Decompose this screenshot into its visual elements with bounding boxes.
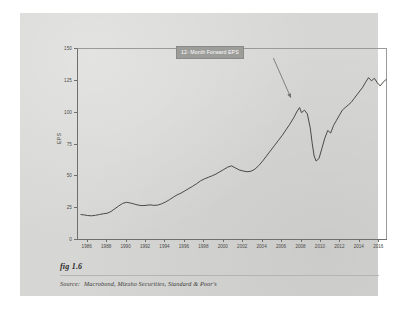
y-tick-mark	[74, 112, 77, 113]
y-tick-label: 125	[64, 77, 72, 82]
y-tick-mark	[74, 175, 77, 176]
y-tick-label: 0	[69, 237, 72, 242]
x-tick-mark	[145, 239, 146, 242]
x-tick-mark	[87, 239, 88, 242]
x-tick-mark	[359, 239, 360, 242]
x-tick-mark	[301, 239, 302, 242]
x-tick-label: 2012	[334, 244, 344, 249]
x-tick-mark	[106, 239, 107, 242]
x-tick-label: 2008	[295, 244, 305, 249]
eps-line-series	[78, 49, 388, 240]
caption-divider	[60, 275, 379, 276]
x-tick-label: 1998	[198, 244, 208, 249]
x-tick-label: 1992	[140, 244, 150, 249]
figure-card: 0255075100125150 19861988199019921994199…	[20, 13, 378, 296]
x-tick-label: 1986	[82, 244, 92, 249]
y-tick-mark	[74, 80, 77, 81]
y-tick-mark	[74, 48, 77, 49]
series-line	[81, 78, 386, 216]
x-tick-label: 2010	[315, 244, 325, 249]
chart-plot-area	[77, 48, 387, 239]
y-tick-label: 150	[64, 46, 72, 51]
y-tick-label: 100	[64, 109, 72, 114]
x-tick-mark	[378, 239, 379, 242]
x-tick-label: 1990	[120, 244, 130, 249]
y-tick-mark	[74, 144, 77, 145]
y-tick-mark	[74, 207, 77, 208]
x-tick-mark	[281, 239, 282, 242]
figure-number: fig 1.6	[60, 262, 82, 271]
x-tick-mark	[164, 239, 165, 242]
source-line: Source:Macrobond, Mizuho Securities, Sta…	[60, 280, 217, 287]
x-tick-label: 1996	[179, 244, 189, 249]
x-tick-mark	[242, 239, 243, 242]
x-tick-mark	[184, 239, 185, 242]
y-tick-label: 25	[67, 205, 72, 210]
figure-page: 0255075100125150 19861988199019921994199…	[0, 0, 397, 311]
source-text: Macrobond, Mizuho Securities, Standard &…	[84, 280, 217, 287]
x-tick-label: 2014	[354, 244, 364, 249]
x-tick-label: 2006	[276, 244, 286, 249]
y-tick-label: 50	[67, 173, 72, 178]
x-tick-label: 2016	[373, 244, 383, 249]
y-tick-mark	[74, 239, 77, 240]
x-tick-label: 1994	[159, 244, 169, 249]
x-tick-mark	[339, 239, 340, 242]
source-lead: Source:	[60, 280, 80, 287]
x-tick-mark	[320, 239, 321, 242]
annotation-label: 12- Month Forward EPS	[176, 46, 244, 59]
x-tick-label: 2000	[218, 244, 228, 249]
y-axis-title: EPS	[56, 133, 62, 144]
x-tick-mark	[203, 239, 204, 242]
x-tick-mark	[126, 239, 127, 242]
x-tick-label: 2002	[237, 244, 247, 249]
x-tick-mark	[223, 239, 224, 242]
x-tick-mark	[262, 239, 263, 242]
x-axis-line	[77, 239, 387, 240]
x-tick-label: 1988	[101, 244, 111, 249]
x-tick-label: 2004	[257, 244, 267, 249]
y-tick-label: 75	[67, 141, 72, 146]
